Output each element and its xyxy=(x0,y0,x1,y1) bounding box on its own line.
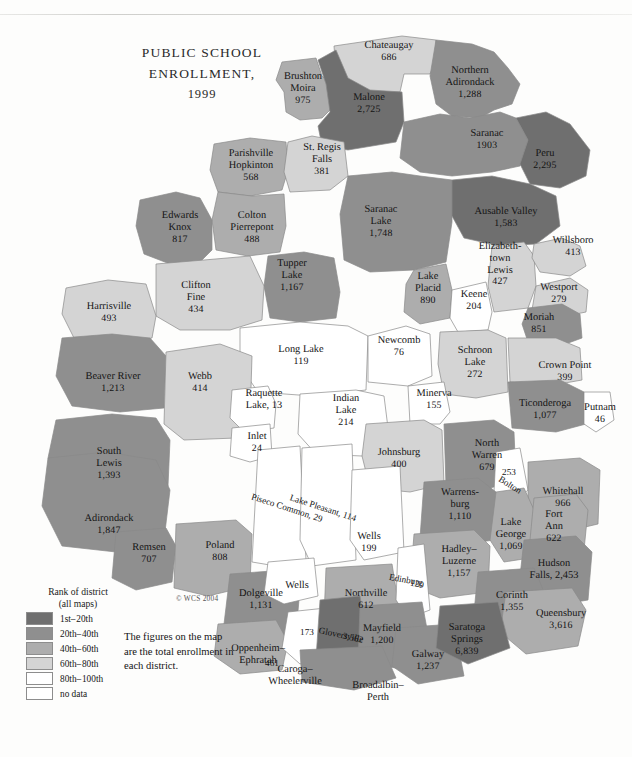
district-enrollment: 1,847 xyxy=(84,525,133,537)
district-label-ticonderoga: Ticonderoga1,077 xyxy=(519,398,571,422)
district-name: Saranac xyxy=(471,128,504,139)
district-enrollment: 400 xyxy=(378,459,421,471)
district-label-indian-lake: Indian Lake214 xyxy=(333,393,360,428)
district-name: Johnsburg xyxy=(378,447,421,458)
legend-swatch xyxy=(26,657,53,670)
district-name: Schroon Lake xyxy=(458,345,493,368)
district-enrollment: 24 xyxy=(247,443,266,455)
district-label-northville: Northville612 xyxy=(345,588,388,612)
district-label-johnsburg: Johnsburg400 xyxy=(378,447,421,471)
district-label-long-lake: Long Lake119 xyxy=(278,344,323,368)
district-enrollment: 272 xyxy=(458,369,493,381)
map-page: PUBLIC SCHOOL ENROLLMENT, 1999 Chateauga… xyxy=(0,0,632,757)
district-name: Long Lake xyxy=(278,344,323,355)
district-enrollment: 966 xyxy=(543,498,584,510)
legend-label: 60th– 80th xyxy=(60,659,98,669)
district-enrollment: 1,110 xyxy=(441,511,479,523)
district-name: Colton Pierrepont xyxy=(230,210,273,233)
district-name: Corinth xyxy=(496,590,528,601)
district-enrollment: 119 xyxy=(278,356,323,368)
district-enrollment: 155 xyxy=(416,400,451,412)
district-name: St. Regis Falls xyxy=(303,142,341,165)
district-enrollment: 1,393 xyxy=(96,470,121,482)
district-enrollment: 427 xyxy=(479,277,522,289)
legend-swatch xyxy=(26,612,53,625)
district-label-putnam: Putnam46 xyxy=(584,402,616,426)
district-name: Peru xyxy=(535,148,554,159)
district-label-malone: Malone2,725 xyxy=(353,92,385,116)
district-label-wells-upper: Wells199 xyxy=(357,531,380,555)
district-enrollment: 214 xyxy=(333,417,360,429)
district-enrollment: 204 xyxy=(461,301,488,313)
district-name: Wells xyxy=(357,531,380,542)
district-label-galway: Galway1,237 xyxy=(412,649,444,673)
district-label-colton-pierrepont: Colton Pierrepont488 xyxy=(230,210,273,245)
district-name: Willsboro xyxy=(552,235,593,246)
district-enrollment: 1,748 xyxy=(365,228,398,240)
district-label-adirondack: Adirondack1,847 xyxy=(84,513,133,537)
district-label-bolton: Bolton xyxy=(497,474,524,496)
district-name: Queensbury xyxy=(536,608,586,619)
district-name: Malone xyxy=(353,92,385,103)
district-label-north-warren: North Warren679 xyxy=(472,438,502,473)
district-label-lake-placid: Lake Placid890 xyxy=(415,271,441,306)
district-name: Tupper Lake xyxy=(277,258,307,281)
map-note: The figures on the map are the total enr… xyxy=(124,630,234,674)
district-name: Webb xyxy=(188,371,212,382)
district-enrollment: 975 xyxy=(284,95,322,107)
district-label-saratoga-springs: Saratoga Springs6,839 xyxy=(449,622,485,657)
legend-label: 40th– 60th xyxy=(60,644,98,654)
legend: Rank of district (all maps) 1st– 20th20t… xyxy=(26,586,130,700)
district-enrollment: 2,295 xyxy=(533,160,556,172)
district-enrollment: 679 xyxy=(472,462,502,474)
district-enrollment: 1,237 xyxy=(412,661,444,673)
legend-swatch xyxy=(26,672,53,685)
district-name: Minerva xyxy=(416,388,451,399)
district-label-whitehall: Whitehall966 xyxy=(543,486,584,510)
district-name: Newcomb xyxy=(378,335,421,346)
district-name: Broadalbin– Perth xyxy=(352,680,403,703)
legend-item-1: 20th– 40th xyxy=(26,627,130,640)
district-enrollment: 434 xyxy=(181,304,210,316)
legend-item-4: 80th– 100th xyxy=(26,672,130,685)
district-name: Adirondack xyxy=(84,513,133,524)
district-label-caroga-number: 173 xyxy=(300,627,314,637)
district-name: Dolgeville xyxy=(239,588,283,599)
district-name: Poland xyxy=(206,540,235,551)
district-label-remsen: Remsen707 xyxy=(132,542,165,566)
district-enrollment: 1,213 xyxy=(85,383,140,395)
district-label-peru: Peru2,295 xyxy=(533,148,556,172)
district-enrollment: 414 xyxy=(188,383,212,395)
copyright-notice: © WCS 2004 xyxy=(176,594,218,603)
district-enrollment: 199 xyxy=(357,543,380,555)
district-label-edinburg-number: 120 xyxy=(409,578,424,591)
district-label-corinth: Corinth1,355 xyxy=(496,590,528,614)
district-label-inlet: Inlet24 xyxy=(247,431,266,455)
district-name: Indian Lake xyxy=(333,393,360,416)
district-label-poland: Poland808 xyxy=(206,540,235,564)
district-name: Mayfield xyxy=(363,623,401,634)
district-enrollment: 1,069 xyxy=(496,541,526,553)
district-enrollment: 76 xyxy=(378,347,421,359)
district-name: Galway xyxy=(412,649,444,660)
district-label-hudson-falls: Hudson Falls, 2,453 xyxy=(530,558,579,582)
district-label-hadley-luzerne: Hadley– Luzerne1,157 xyxy=(441,544,476,579)
district-enrollment: 279 xyxy=(540,294,577,306)
district-label-ausable-valley: Ausable Valley1,583 xyxy=(474,206,537,230)
district-label-dolgeville: Dolgeville1,131 xyxy=(239,588,283,612)
district-label-st-regis-falls: St. Regis Falls381 xyxy=(303,142,341,177)
district-label-south-lewis: South Lewis1,393 xyxy=(96,446,121,481)
district-label-beaver-river: Beaver River1,213 xyxy=(85,371,140,395)
district-enrollment: 851 xyxy=(524,324,555,336)
district-label-schroon-lake: Schroon Lake272 xyxy=(458,345,493,380)
district-label-crown-point: Crown Point399 xyxy=(539,360,592,384)
legend-label: 20th– 40th xyxy=(60,629,98,639)
district-name: Hudson Falls, 2,453 xyxy=(530,558,579,581)
district-label-northern-adirondack: Northern Adirondack1,288 xyxy=(445,65,494,100)
district-enrollment: 686 xyxy=(364,52,413,64)
district-name: Brushton Moira xyxy=(284,71,322,94)
district-enrollment: 808 xyxy=(206,552,235,564)
district-label-fort-ann: Fort Ann622 xyxy=(545,509,563,544)
district-name: Remsen xyxy=(132,542,165,553)
district-name: Inlet xyxy=(247,431,266,442)
